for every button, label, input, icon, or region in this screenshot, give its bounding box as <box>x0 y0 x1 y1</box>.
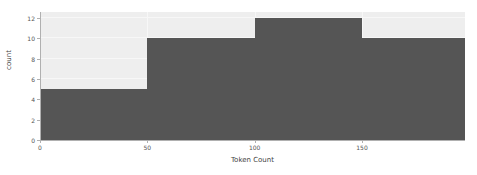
x-tick-label: 150 <box>356 144 367 151</box>
x-axis-title: Token Count <box>40 156 465 164</box>
y-tick-mark <box>37 79 40 80</box>
x-tick-mark <box>255 140 256 143</box>
x-tick-mark <box>147 140 148 143</box>
y-tick-label: 12 <box>26 15 35 22</box>
y-tick-mark <box>37 120 40 121</box>
y-axis-title: count <box>5 40 13 80</box>
y-tick-mark <box>37 99 40 100</box>
x-tick-mark <box>40 140 41 143</box>
histogram-figure: 050100150 024681012 Token Count count <box>0 0 477 175</box>
histogram-bar <box>362 38 465 140</box>
x-axis-line <box>40 140 465 141</box>
x-tick-label: 50 <box>143 144 151 151</box>
y-tick-label: 2 <box>26 116 35 123</box>
x-tick-mark <box>362 140 363 143</box>
y-tick-label: 4 <box>26 96 35 103</box>
histogram-bar <box>40 89 147 140</box>
x-tick-label: 0 <box>38 144 42 151</box>
y-tick-label: 0 <box>26 137 35 144</box>
y-tick-mark <box>37 18 40 19</box>
y-axis-line <box>40 12 41 140</box>
y-tick-label: 10 <box>26 35 35 42</box>
gridline-horizontal <box>40 17 465 18</box>
histogram-bar <box>255 18 362 140</box>
x-tick-label: 100 <box>249 144 260 151</box>
histogram-bar <box>147 38 254 140</box>
y-tick-mark <box>37 59 40 60</box>
y-tick-mark <box>37 38 40 39</box>
y-tick-mark <box>37 140 40 141</box>
y-tick-label: 6 <box>26 76 35 83</box>
y-tick-label: 8 <box>26 55 35 62</box>
plot-area <box>40 12 465 140</box>
